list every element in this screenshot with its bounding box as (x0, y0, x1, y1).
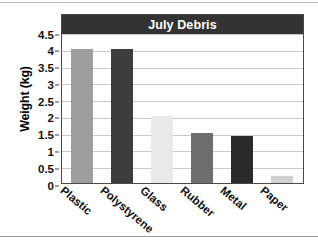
bar (71, 49, 93, 183)
x-axis-category-label: Glass (138, 184, 170, 213)
plot-area (62, 34, 303, 183)
y-axis-tick-mark (55, 68, 59, 69)
page-top-rule (0, 2, 318, 3)
chart-frame: July Debris (61, 14, 304, 184)
chart-title-bar: July Debris (62, 15, 303, 34)
chart-page: Weight (kg) 00.511.522.533.544.5 July De… (0, 0, 318, 245)
chart-title: July Debris (148, 18, 217, 32)
y-axis-tick-mark (55, 168, 59, 169)
x-axis-category-label: Plastic (58, 184, 94, 217)
y-axis-tick-mark (55, 118, 59, 119)
bar (151, 116, 173, 183)
y-axis-tick-label: 4.5 (24, 29, 54, 41)
y-axis-tick-mark (55, 51, 59, 52)
y-axis-tick-label: 0 (24, 180, 54, 192)
bar (271, 176, 293, 183)
bar (191, 133, 213, 183)
y-axis-tick-mark (55, 34, 59, 35)
y-axis-tick-labels: 00.511.522.533.544.5 (24, 25, 54, 183)
y-axis-tick-label: 1.5 (24, 129, 54, 141)
y-axis-tick-mark (55, 185, 59, 186)
y-axis-tick-label: 0.5 (24, 163, 54, 175)
x-axis-category-labels: PlasticPolystyreneGlassRubberMetalPaper (61, 184, 304, 242)
y-axis-tick-mark (55, 101, 59, 102)
y-axis-tick-label: 3.5 (24, 62, 54, 74)
y-axis-tick-label: 1 (24, 146, 54, 158)
y-axis-tick-mark (55, 151, 59, 152)
y-axis-tick-label: 4 (24, 45, 54, 57)
bar (111, 49, 133, 183)
x-axis-category-label: Rubber (178, 184, 217, 219)
y-axis-tick-label: 3 (24, 79, 54, 91)
x-axis-category-label: Metal (218, 184, 248, 212)
x-axis-category-label: Paper (258, 184, 290, 214)
y-axis-tick-label: 2.5 (24, 96, 54, 108)
bar (231, 136, 253, 183)
y-axis-tick-mark (55, 84, 59, 85)
bar-series (62, 34, 303, 183)
y-axis-tick-mark (55, 135, 59, 136)
y-axis-tick-label: 2 (24, 112, 54, 124)
